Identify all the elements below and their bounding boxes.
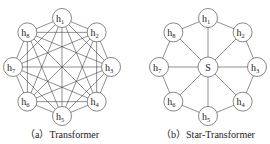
caption-transformer: （a）Transformer xyxy=(25,129,100,140)
node-h5: h5 xyxy=(53,107,72,126)
star-node-h8: h8 xyxy=(164,23,183,42)
transformer-graph: h1h2h3h4h5h6h7h8 （a）Transformer xyxy=(4,9,121,141)
star-transformer-graph: h1h2h3h4h5h6h7h8S （b）Star-Transformer xyxy=(150,9,267,141)
star-node-h1: h1 xyxy=(199,9,218,28)
star-node-h3: h3 xyxy=(248,58,267,77)
star-transformer-nodes: h1h2h3h4h5h6h7h8S xyxy=(150,9,267,126)
node-h1: h1 xyxy=(53,9,72,28)
node-h8: h8 xyxy=(18,23,37,42)
node-h6: h6 xyxy=(18,92,37,111)
relay-node-s: S xyxy=(198,57,218,77)
caption-star-transformer: （b）Star-Transformer xyxy=(161,129,256,140)
star-node-h5: h5 xyxy=(199,107,218,126)
star-node-h4: h4 xyxy=(233,92,252,111)
node-h2: h2 xyxy=(87,23,106,42)
node-h7: h7 xyxy=(4,58,23,77)
node-h3: h3 xyxy=(102,58,121,77)
star-node-h6: h6 xyxy=(164,92,183,111)
node-h4: h4 xyxy=(87,92,106,111)
diagram-canvas: h1h2h3h4h5h6h7h8 （a）Transformer h1h2h3h4… xyxy=(0,0,270,144)
star-node-h2: h2 xyxy=(233,23,252,42)
relay-node-s-label: S xyxy=(205,62,211,73)
star-node-h7: h7 xyxy=(150,58,169,77)
